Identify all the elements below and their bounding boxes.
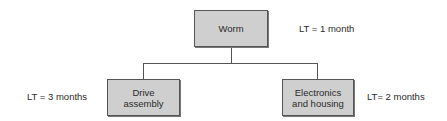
lead-time-worm: LT = 1 month xyxy=(299,23,354,34)
drive-connector-line xyxy=(143,63,144,79)
node-electronics-label-line1: Electronics xyxy=(295,87,341,98)
node-electronics-housing: Electronics and housing xyxy=(282,79,354,116)
node-drive-label-line1: Drive xyxy=(132,87,154,98)
electronics-connector-line xyxy=(317,63,318,79)
node-drive-assembly: Drive assembly xyxy=(107,79,180,116)
horizontal-connector-line xyxy=(143,63,318,64)
node-drive-label-line2: assembly xyxy=(123,98,163,109)
lead-time-electronics-housing: LT= 2 months xyxy=(367,91,425,102)
root-stem-line xyxy=(231,47,232,63)
lead-time-drive-assembly: LT = 3 months xyxy=(27,91,87,102)
node-worm-label: Worm xyxy=(218,23,243,34)
node-worm: Worm xyxy=(194,10,268,47)
node-electronics-label-line2: and housing xyxy=(292,98,344,109)
